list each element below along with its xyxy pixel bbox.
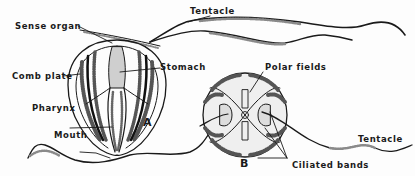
label-sense-organ: Sense organ [15,22,81,31]
label-mouth: Mouth [54,131,87,140]
figure-letter-b: B [240,158,248,169]
label-tentacle-b: Tentacle [358,135,403,144]
label-ciliated-bands: Ciliated bands [292,161,369,170]
label-comb-plate: Comb plate [12,72,73,81]
tentacle-a-upper [80,17,405,48]
figure-letter-a: A [143,117,152,128]
label-pharynx: Pharynx [32,104,75,113]
label-tentacle-a: Tentacle [190,7,235,16]
body-b [203,73,287,157]
ctenophore-diagram: Tentacle Sense organ Stomach Comb plate … [0,0,415,176]
label-polar-fields: Polar fields [265,63,327,72]
label-stomach: Stomach [160,63,206,72]
